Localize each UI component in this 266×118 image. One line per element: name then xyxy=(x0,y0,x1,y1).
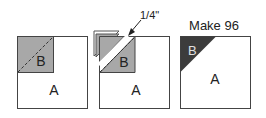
label-b: B xyxy=(36,53,45,69)
label-a: A xyxy=(131,82,141,98)
label-b: B xyxy=(119,54,128,70)
make-count-caption: Make 96 xyxy=(189,18,239,33)
seam-allowance-label: 1/4" xyxy=(140,9,159,21)
step-3: Make 96 B A xyxy=(181,18,251,109)
quilt-block-diagram: B A B A 1/4" Make 96 B A xyxy=(0,0,266,118)
step-1: B A xyxy=(18,37,88,109)
label-a: A xyxy=(210,71,220,87)
label-b: B xyxy=(188,43,197,58)
label-a: A xyxy=(49,82,59,98)
step-2: B A 1/4" xyxy=(94,9,170,109)
